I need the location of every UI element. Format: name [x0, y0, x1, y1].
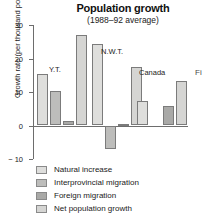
y-tick: 30	[29, 25, 33, 26]
chart-title: Population growth	[58, 2, 188, 14]
plot-area: 3020100− 10 Y.T.N.W.T.Canada	[33, 25, 188, 159]
y-tick-label: 30	[15, 21, 23, 30]
legend-swatch-icon	[36, 205, 47, 213]
legend-label: Foreign migration	[54, 191, 116, 200]
group-label-nwt: N.W.T.	[101, 47, 123, 56]
y-tick-label: − 10	[8, 155, 23, 164]
legend-label: Net population growth	[54, 204, 132, 213]
y-tick-label: 0	[19, 121, 23, 130]
legend-item: Net population growth	[36, 202, 139, 215]
y-tick: 20	[29, 59, 33, 60]
side-caption: Fi	[195, 68, 220, 77]
group-label-yt: Y.T.	[49, 65, 61, 74]
bar	[92, 44, 103, 125]
bar	[176, 81, 187, 126]
bar	[163, 106, 174, 126]
y-tick: 10	[29, 92, 33, 93]
bar	[63, 121, 74, 126]
legend-swatch-icon	[36, 179, 47, 187]
bar	[37, 74, 48, 125]
y-tick: − 10	[29, 159, 33, 160]
bar	[76, 35, 87, 126]
legend-item: Interprovincial migration	[36, 176, 139, 189]
legend-item: Natural increase	[36, 163, 139, 176]
chart-legend: Natural increaseInterprovincial migratio…	[36, 163, 139, 215]
population-growth-figure: Population growth (1988–92 average) Grow…	[0, 0, 220, 218]
bar	[105, 126, 116, 149]
legend-swatch-icon	[36, 192, 47, 200]
group-label-canada: Canada	[139, 68, 165, 77]
y-tick-label: 10	[15, 88, 23, 97]
legend-swatch-icon	[36, 166, 47, 174]
y-axis-line	[33, 25, 34, 159]
bar	[50, 91, 61, 126]
legend-label: Natural increase	[54, 165, 112, 174]
y-tick-label: 20	[15, 54, 23, 63]
bar	[118, 124, 129, 126]
chart-subtitle: (1988–92 average)	[58, 15, 188, 25]
legend-item: Foreign migration	[36, 189, 139, 202]
legend-label: Interprovincial migration	[54, 178, 139, 187]
bar	[137, 101, 148, 126]
